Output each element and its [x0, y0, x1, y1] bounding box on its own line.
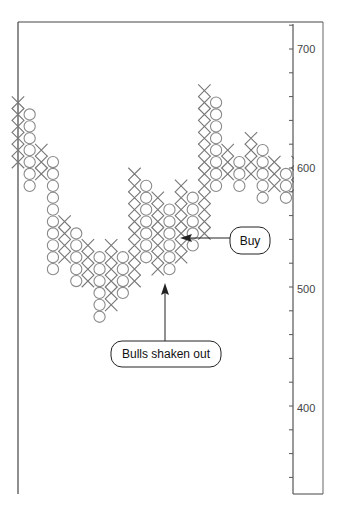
- o-box-icon: [210, 156, 221, 167]
- o-box-icon: [24, 168, 35, 179]
- x-box-icon: [245, 156, 257, 168]
- o-box-icon: [94, 275, 105, 286]
- x-box-icon: [198, 168, 210, 180]
- o-box-icon: [280, 168, 291, 179]
- o-box-icon: [141, 252, 152, 263]
- x-box-icon: [198, 144, 210, 156]
- x-box-icon: [198, 132, 210, 144]
- x-box-icon: [198, 120, 210, 132]
- o-box-icon: [210, 133, 221, 144]
- o-box-icon: [47, 216, 58, 227]
- x-box-icon: [128, 192, 140, 204]
- x-box-icon: [268, 180, 280, 192]
- o-box-icon: [187, 192, 198, 203]
- o-box-icon: [94, 299, 105, 310]
- o-box-icon: [94, 311, 105, 322]
- o-box-icon: [280, 192, 291, 203]
- o-box-icon: [280, 180, 291, 191]
- pnf-column-o: [117, 252, 128, 299]
- o-box-icon: [187, 216, 198, 227]
- y-tick-label-700: 700: [297, 43, 315, 55]
- x-box-icon: [128, 168, 140, 180]
- pnf-column-x: [82, 239, 94, 287]
- pnf-column-o: [24, 109, 35, 192]
- x-box-icon: [128, 227, 140, 239]
- o-box-icon: [47, 192, 58, 203]
- pnf-column-x: [35, 144, 47, 180]
- o-box-icon: [210, 180, 221, 191]
- x-box-icon: [105, 263, 117, 275]
- pnf-column-o: [280, 168, 291, 203]
- o-box-icon: [141, 180, 152, 191]
- x-box-icon: [82, 275, 94, 287]
- o-box-icon: [141, 216, 152, 227]
- pnf-column-o: [257, 145, 268, 204]
- o-box-icon: [117, 252, 128, 263]
- x-box-icon: [58, 215, 70, 227]
- o-box-icon: [24, 145, 35, 156]
- x-box-icon: [58, 251, 70, 263]
- pnf-column-x: [175, 180, 187, 264]
- x-box-icon: [152, 239, 164, 251]
- x-box-icon: [105, 275, 117, 287]
- pnf-column-x: [222, 144, 234, 180]
- x-box-icon: [222, 168, 234, 180]
- o-box-icon: [71, 252, 82, 263]
- x-box-icon: [175, 203, 187, 215]
- x-box-icon: [82, 263, 94, 275]
- o-box-icon: [47, 180, 58, 191]
- o-box-icon: [141, 192, 152, 203]
- x-box-icon: [128, 215, 140, 227]
- pnf-column-x: [128, 168, 140, 288]
- x-box-icon: [268, 156, 280, 168]
- x-box-icon: [152, 263, 164, 275]
- pnf-column-x: [268, 156, 280, 192]
- x-box-icon: [175, 251, 187, 263]
- o-box-icon: [210, 121, 221, 132]
- x-box-icon: [198, 203, 210, 215]
- x-box-icon: [58, 227, 70, 239]
- x-box-icon: [35, 156, 47, 168]
- x-box-icon: [245, 132, 257, 144]
- x-box-icon: [82, 239, 94, 251]
- pnf-column-o: [210, 97, 221, 191]
- o-box-icon: [210, 168, 221, 179]
- pnf-chart: 700 600 500 400 Buy Bulls shaken out: [0, 0, 344, 517]
- o-box-icon: [210, 97, 221, 108]
- pnf-column-o: [47, 156, 58, 274]
- x-box-icon: [35, 144, 47, 156]
- x-box-icon: [128, 180, 140, 192]
- o-box-icon: [257, 156, 268, 167]
- o-box-icon: [47, 228, 58, 239]
- o-box-icon: [187, 240, 198, 251]
- pnf-column-o: [141, 180, 152, 263]
- o-box-icon: [47, 204, 58, 215]
- o-box-icon: [47, 156, 58, 167]
- x-box-icon: [35, 168, 47, 180]
- x-box-icon: [152, 203, 164, 215]
- o-box-icon: [24, 180, 35, 191]
- x-box-icon: [198, 96, 210, 108]
- o-box-icon: [94, 264, 105, 275]
- x-box-icon: [105, 251, 117, 263]
- o-box-icon: [141, 228, 152, 239]
- o-box-icon: [71, 228, 82, 239]
- x-box-icon: [128, 263, 140, 275]
- x-box-icon: [245, 168, 257, 180]
- o-box-icon: [141, 240, 152, 251]
- o-box-icon: [210, 145, 221, 156]
- x-box-icon: [222, 144, 234, 156]
- o-box-icon: [210, 109, 221, 120]
- o-box-icon: [234, 156, 245, 167]
- o-box-icon: [164, 228, 175, 239]
- o-box-icon: [234, 180, 245, 191]
- o-box-icon: [71, 240, 82, 251]
- pnf-column-o: [234, 156, 245, 191]
- o-box-icon: [164, 204, 175, 215]
- o-box-icon: [71, 275, 82, 286]
- x-box-icon: [105, 287, 117, 299]
- x-box-icon: [152, 192, 164, 204]
- o-box-icon: [24, 156, 35, 167]
- x-box-icon: [198, 108, 210, 120]
- x-box-icon: [268, 168, 280, 180]
